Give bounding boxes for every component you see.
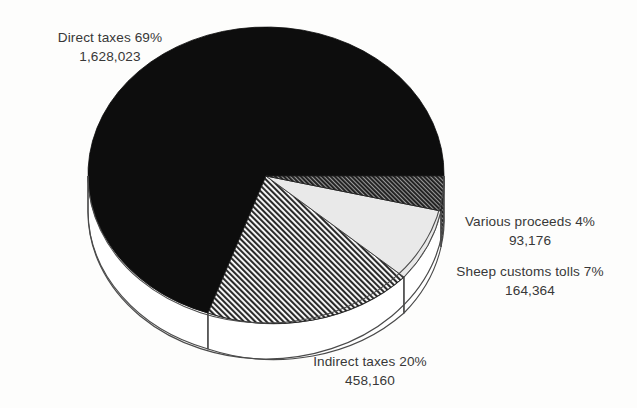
slice-label-sheep-customs-tolls-line2: 164,364: [432, 281, 628, 300]
slice-label-indirect-taxes-line1: Indirect taxes 20%: [290, 352, 450, 371]
slice-label-direct-taxes: Direct taxes 69% 1,628,023: [20, 28, 200, 66]
slice-label-indirect-taxes-line2: 458,160: [290, 371, 450, 390]
slice-label-sheep-customs-tolls: Sheep customs tolls 7% 164,364: [432, 262, 628, 300]
pie-chart-figure: Direct taxes 69% 1,628,023 Various proce…: [0, 0, 637, 408]
slice-label-various-proceeds-line1: Various proceeds 4%: [446, 212, 614, 231]
slice-label-direct-taxes-line1: Direct taxes 69%: [20, 28, 200, 47]
slice-label-sheep-customs-tolls-line1: Sheep customs tolls 7%: [432, 262, 628, 281]
slice-label-indirect-taxes: Indirect taxes 20% 458,160: [290, 352, 450, 390]
pie-top-face: [88, 27, 444, 323]
slice-label-various-proceeds-line2: 93,176: [446, 231, 614, 250]
slice-label-various-proceeds: Various proceeds 4% 93,176: [446, 212, 614, 250]
slice-label-direct-taxes-line2: 1,628,023: [20, 47, 200, 66]
